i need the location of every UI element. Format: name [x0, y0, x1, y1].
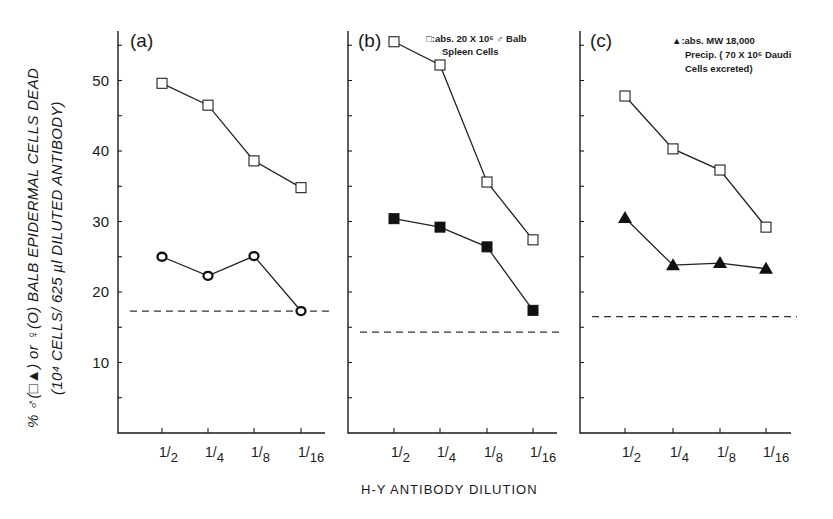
axis-frame: [580, 31, 791, 433]
series-line: [162, 83, 301, 187]
x-tick-label: 1/2: [622, 444, 641, 465]
x-tick-label: 1/2: [159, 444, 178, 465]
y-tick-label: 10: [92, 354, 109, 371]
filled-square-marker: [435, 222, 445, 232]
x-tick-label: 1/4: [670, 444, 689, 465]
panel-label-c: (c): [590, 30, 612, 51]
y-axis-title-line2: (10⁴ CELLS/ 625 µl DILUTED ANTIBODY): [48, 101, 65, 395]
y-tick-labels: 1020304050: [92, 72, 109, 371]
legend-b: □:abs. 20 X 10⁶ ♂ Balb Spleen Cells: [426, 33, 527, 57]
circle-marker: [158, 253, 167, 261]
panel-label-a: (a): [130, 30, 153, 51]
open-square-marker: [715, 165, 725, 175]
series-line: [625, 96, 766, 227]
axis-frame: [118, 31, 325, 433]
triangle-marker: [713, 256, 727, 268]
x-tick-label: 1/8: [717, 444, 736, 465]
panel-label-b: (b): [358, 30, 381, 51]
x-tick-label: 1/4: [205, 444, 224, 465]
open-square-marker: [620, 91, 630, 101]
x-tick-label: 1/4: [437, 444, 456, 465]
figure: % ♂(□▲) or ♀(O) BALB EPIDERMAL CELLS DEA…: [0, 0, 833, 519]
x-tick-label: 1/8: [484, 444, 503, 465]
open-square-marker: [249, 156, 259, 166]
legend-c-line1: ▲:abs. MW 18,000: [672, 35, 755, 46]
open-square-marker: [528, 235, 538, 245]
y-axis-title: % ♂(□▲) or ♀(O) BALB EPIDERMAL CELLS DEA…: [24, 68, 65, 428]
x-tick-label: 1/16: [530, 444, 556, 465]
legend-c-line2: Precip. ( 70 X 10⁶ Daudi: [685, 49, 791, 60]
x-tick-label: 1/16: [763, 444, 789, 465]
y-tick-label: 40: [92, 142, 109, 159]
open-square-marker: [435, 60, 445, 70]
x-axis-title: H-Y ANTIBODY DILUTION: [361, 482, 538, 497]
series-line: [625, 218, 766, 269]
series-line: [162, 256, 301, 311]
x-tick-label: 1/8: [251, 444, 270, 465]
panel-b: (b) □:abs. 20 X 10⁶ ♂ Balb Spleen Cells …: [348, 30, 563, 465]
legend-c: ▲:abs. MW 18,000 Precip. ( 70 X 10⁶ Daud…: [672, 35, 791, 74]
filled-square-marker: [528, 305, 538, 315]
open-square-marker: [296, 183, 306, 193]
series-line: [394, 42, 533, 240]
circle-marker: [204, 272, 213, 280]
legend-b-line2: Spleen Cells: [442, 46, 499, 57]
y-axis-title-line1: % ♂(□▲) or ♀(O) BALB EPIDERMAL CELLS DEA…: [24, 68, 41, 428]
circle-marker: [297, 307, 306, 315]
open-square-marker: [482, 177, 492, 187]
filled-square-marker: [482, 242, 492, 252]
filled-square-marker: [389, 214, 399, 224]
open-square-marker: [203, 100, 213, 110]
open-square-marker: [389, 37, 399, 47]
circle-marker: [250, 252, 259, 260]
series-line: [394, 219, 533, 311]
legend-c-line3: Cells excreted): [685, 63, 753, 74]
panel-c: (c) ▲:abs. MW 18,000 Precip. ( 70 X 10⁶ …: [580, 30, 797, 465]
x-tick-label: 1/16: [298, 444, 324, 465]
y-tick-label: 50: [92, 72, 109, 89]
x-tick-label: 1/2: [391, 444, 410, 465]
y-tick-label: 30: [92, 213, 109, 230]
legend-b-line1: □:abs. 20 X 10⁶ ♂ Balb: [426, 33, 527, 44]
open-square-marker: [157, 78, 167, 88]
triangle-marker: [618, 211, 632, 223]
y-tick-label: 20: [92, 283, 109, 300]
panel-a: (a) 1/21/41/81/16: [118, 30, 331, 465]
open-square-marker: [668, 144, 678, 154]
open-square-marker: [761, 222, 771, 232]
